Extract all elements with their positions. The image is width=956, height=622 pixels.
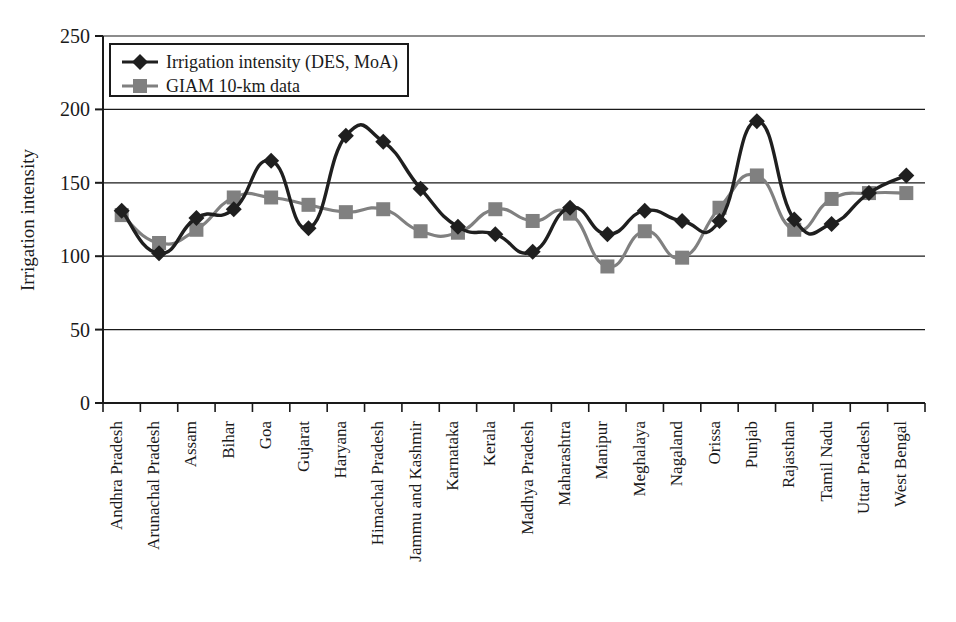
x-category-label: Manipur bbox=[592, 421, 611, 480]
x-category-label: Haryana bbox=[331, 421, 350, 479]
x-category-label: Jammu and Kashmir bbox=[406, 421, 425, 562]
data-point-marker bbox=[526, 214, 540, 228]
data-point-marker bbox=[414, 224, 428, 238]
x-category-label: West Bengal bbox=[891, 421, 910, 507]
legend-label-1: Irrigation intensity (DES, MoA) bbox=[166, 52, 398, 73]
data-point-marker bbox=[638, 224, 652, 238]
data-point-marker bbox=[302, 198, 316, 212]
chart-legend: Irrigation intensity (DES, MoA)GIAM 10-k… bbox=[110, 44, 408, 96]
x-category-label: Himachal Pradesh bbox=[368, 421, 387, 546]
x-category-label: Rajasthan bbox=[779, 421, 798, 489]
irrigation-intensity-chart: 050100150200250 Andhra PradeshArunachal … bbox=[0, 0, 956, 622]
x-category-label: Assam bbox=[181, 421, 200, 467]
x-category-label: Kerala bbox=[480, 421, 499, 467]
y-tick-label: 250 bbox=[60, 25, 90, 47]
y-tick-label: 150 bbox=[60, 172, 90, 194]
data-point-marker bbox=[339, 205, 353, 219]
data-point-marker bbox=[488, 202, 502, 216]
x-category-label: Madhya Pradesh bbox=[518, 421, 537, 535]
y-axis-ticks: 050100150200250 bbox=[60, 25, 103, 414]
x-category-label: Punjab bbox=[742, 421, 761, 468]
data-point-marker bbox=[264, 190, 278, 204]
data-point-marker bbox=[133, 79, 147, 93]
x-category-label: Karnataka bbox=[443, 421, 462, 491]
x-category-label: Tamil Nadu bbox=[817, 421, 836, 502]
x-axis-ticks bbox=[103, 403, 925, 412]
x-axis-category-labels: Andhra PradeshArunachal PradeshAssamBiha… bbox=[107, 421, 911, 562]
x-category-label: Bihar bbox=[219, 421, 238, 459]
data-point-marker bbox=[675, 251, 689, 265]
y-tick-label: 200 bbox=[60, 98, 90, 120]
x-category-label: Meghalaya bbox=[630, 421, 649, 497]
y-axis-title: Irrigation intensity bbox=[17, 149, 38, 291]
data-point-marker bbox=[600, 259, 614, 273]
x-category-label: Maharashtra bbox=[555, 421, 574, 506]
y-tick-label: 50 bbox=[70, 319, 90, 341]
y-tick-label: 100 bbox=[60, 245, 90, 267]
x-category-label: Gujarat bbox=[294, 421, 313, 472]
data-point-marker bbox=[376, 202, 390, 216]
x-category-label: Nagaland bbox=[667, 421, 686, 487]
x-category-label: Andhra Pradesh bbox=[107, 421, 126, 531]
data-point-marker bbox=[750, 168, 764, 182]
data-point-marker bbox=[825, 192, 839, 206]
legend-marker-2 bbox=[133, 79, 147, 93]
x-category-label: Orissa bbox=[705, 421, 724, 465]
legend-label-2: GIAM 10-km data bbox=[166, 76, 300, 96]
data-point-marker bbox=[899, 186, 913, 200]
x-category-label: Goa bbox=[256, 421, 275, 450]
x-category-label: Uttar Pradesh bbox=[854, 421, 873, 515]
x-category-label: Arunachal Pradesh bbox=[144, 421, 163, 550]
chart-canvas: 050100150200250 Andhra PradeshArunachal … bbox=[0, 0, 956, 622]
y-tick-label: 0 bbox=[80, 392, 90, 414]
